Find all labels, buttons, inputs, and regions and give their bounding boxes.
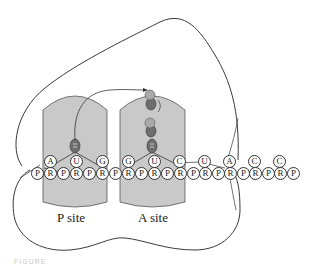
backbone-unit: R (122, 167, 135, 180)
backbone-unit: P (161, 167, 174, 180)
backbone-unit: P (135, 167, 148, 180)
backbone-unit: R (224, 167, 237, 180)
backbone-unit: P (83, 167, 96, 180)
backbone-unit: R (249, 167, 262, 180)
backbone-unit: P (57, 167, 70, 180)
figure-caption: FIGURE (14, 258, 46, 265)
backbone-unit: R (148, 167, 161, 180)
p-site-label: P site (57, 210, 85, 226)
backbone-unit: R (274, 167, 287, 180)
backbone-unit: P (109, 167, 122, 180)
backbone-unit: R (96, 167, 109, 180)
backbone-unit: P (31, 167, 44, 180)
ribosome-diagram: A U G G U C U A C C P R P R P R P R P R … (0, 0, 316, 273)
backbone-unit: R (70, 167, 83, 180)
backbone-unit: R (199, 167, 212, 180)
backbone-unit: R (44, 167, 57, 180)
p-trna-icon (70, 139, 80, 153)
backbone-unit: P (287, 167, 300, 180)
a-trna-icon (147, 139, 157, 153)
backbone-unit: R (174, 167, 187, 180)
ribosome-graphic (0, 0, 316, 273)
a-site-label: A site (138, 210, 168, 226)
